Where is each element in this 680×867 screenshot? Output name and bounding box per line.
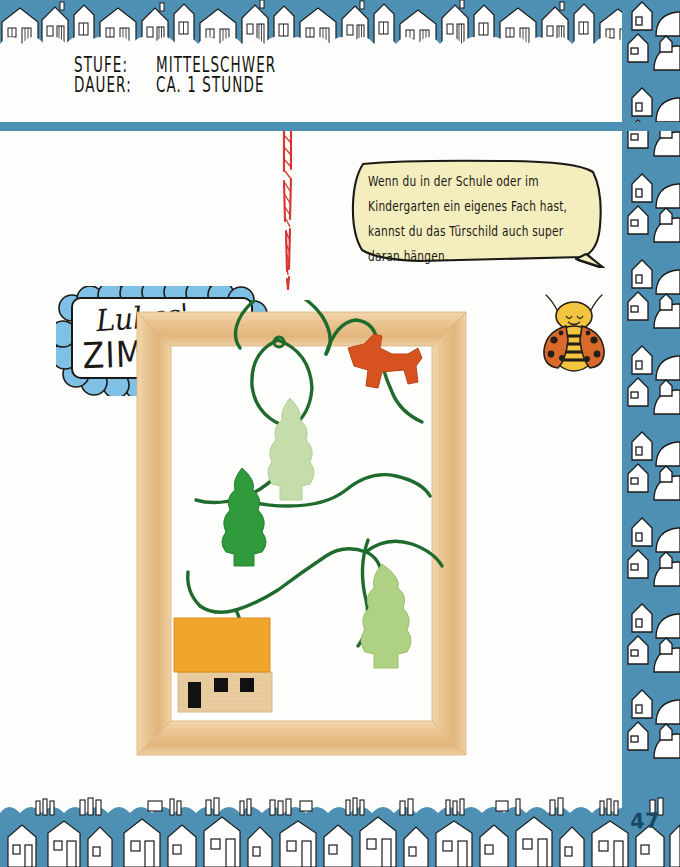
project-meta: STUFE: MITTELSCHWER DAUER: CA. 1 STUNDE — [74, 60, 404, 100]
page-number: 47 — [629, 808, 660, 834]
wooden-frame-craft — [130, 300, 480, 770]
page-canvas: STUFE: MITTELSCHWER DAUER: CA. 1 STUNDE … — [0, 0, 680, 867]
meta-row-duration: DAUER: CA. 1 STUNDE — [74, 80, 404, 98]
ladybug-illustration — [538, 292, 610, 378]
tip-speech-bubble: Wenn du in der Schule oder im Kindergart… — [350, 156, 605, 268]
hanging-twine — [276, 131, 300, 291]
meta-label-duration: DAUER: — [74, 72, 128, 98]
meta-value-duration: CA. 1 STUNDE — [156, 72, 265, 98]
house-border-bottom — [0, 795, 680, 867]
section-divider-rule — [0, 122, 680, 131]
tip-text: Wenn du in der Schule oder im Kindergart… — [368, 169, 592, 269]
house-border-top — [0, 0, 680, 58]
ornament-house-wood-orange-roof — [174, 618, 272, 712]
